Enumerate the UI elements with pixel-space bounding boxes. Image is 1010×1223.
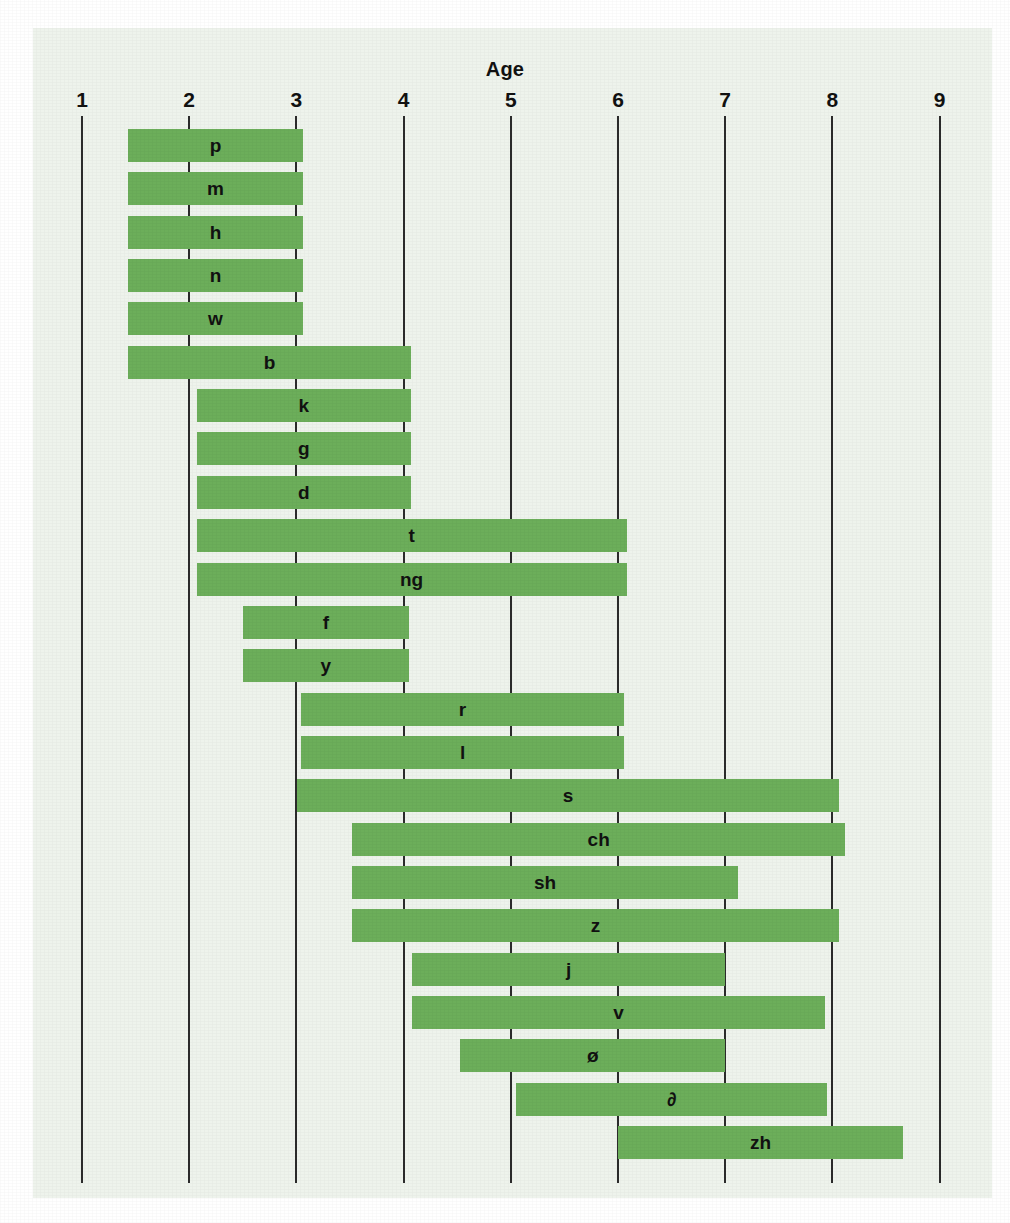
bar-row: p	[0, 129, 1010, 162]
bar-label: zh	[618, 1126, 903, 1159]
bar-label: w	[128, 302, 303, 335]
bar-row: z	[0, 909, 1010, 942]
bar-label: z	[352, 909, 839, 942]
bar-row: m	[0, 172, 1010, 205]
bar-label: ∂	[516, 1083, 827, 1116]
bar-row: zh	[0, 1126, 1010, 1159]
bar-label: m	[128, 172, 303, 205]
bar-label: y	[243, 649, 409, 682]
bar-row: b	[0, 346, 1010, 379]
bar-row: f	[0, 606, 1010, 639]
bar-row: s	[0, 779, 1010, 812]
bar-label: j	[412, 953, 725, 986]
bar-label: n	[128, 259, 303, 292]
bar-label: l	[301, 736, 625, 769]
bar-label: k	[197, 389, 411, 422]
bar-row: k	[0, 389, 1010, 422]
bar-label: f	[243, 606, 409, 639]
bar-row: h	[0, 216, 1010, 249]
bar-row: l	[0, 736, 1010, 769]
bar-row: d	[0, 476, 1010, 509]
bar-label: g	[197, 432, 411, 465]
bar-series: pmhnwbkgdtngfyrlschshzjvø∂zh	[0, 0, 1010, 1223]
bar-row: v	[0, 996, 1010, 1029]
bar-row: ng	[0, 563, 1010, 596]
bar-label: b	[128, 346, 411, 379]
bar-label: ø	[460, 1039, 725, 1072]
bar-label: v	[412, 996, 825, 1029]
bar-row: w	[0, 302, 1010, 335]
bar-label: d	[197, 476, 411, 509]
bar-row: g	[0, 432, 1010, 465]
bar-label: h	[128, 216, 303, 249]
bar-row: y	[0, 649, 1010, 682]
bar-row: n	[0, 259, 1010, 292]
bar-row: ch	[0, 823, 1010, 856]
bar-row: ø	[0, 1039, 1010, 1072]
bar-row: ∂	[0, 1083, 1010, 1116]
bar-row: sh	[0, 866, 1010, 899]
bar-label: r	[301, 693, 625, 726]
bar-row: r	[0, 693, 1010, 726]
bar-label: ch	[352, 823, 845, 856]
bar-label: s	[297, 779, 838, 812]
bar-label: t	[197, 519, 627, 552]
bar-label: p	[128, 129, 303, 162]
bar-row: t	[0, 519, 1010, 552]
bar-label: ng	[197, 563, 627, 596]
bar-row: j	[0, 953, 1010, 986]
speech-sound-acquisition-chart: Age 123456789 pmhnwbkgdtngfyrlschshzjvø∂…	[0, 0, 1010, 1223]
bar-label: sh	[352, 866, 738, 899]
